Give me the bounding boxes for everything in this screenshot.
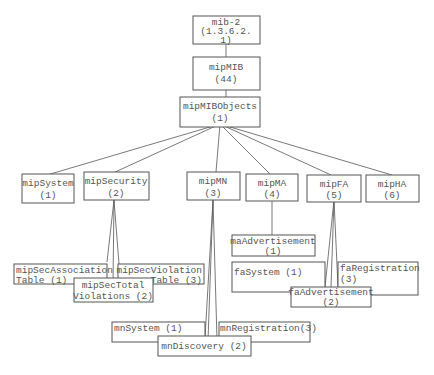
node-label: (3) <box>204 188 221 199</box>
node-label: faRegistration <box>340 263 420 274</box>
node-label: mnDiscovery (2) <box>161 341 247 352</box>
edge-fa-registration <box>334 200 338 287</box>
node-mipMN: mipMN (3) <box>187 172 240 200</box>
edge-objects-mipSecurity <box>113 124 220 173</box>
node-label: mipMA <box>258 178 287 189</box>
node-mipMIBObjects: mipMIBObjects (1) <box>180 97 260 127</box>
node-label: mipHA <box>378 179 407 190</box>
node-mib2: mib-2 (1.3.6.2. 1) <box>193 16 260 46</box>
mib-tree-diagram: mib-2 (1.3.6.2. 1) mipMIB (44) mipMIBObj… <box>0 0 434 375</box>
node-faAdvertisement: faAdvertisement (2) <box>288 287 374 308</box>
node-label: mipFA <box>320 179 349 190</box>
edge-objects-mipMN <box>216 124 220 172</box>
node-label: (4) <box>263 189 280 200</box>
edge-security-total <box>113 200 114 283</box>
node-mipHA: mipHA (6) <box>366 175 419 202</box>
node-label: (5) <box>325 190 342 201</box>
edge-security-assoc <box>107 200 114 262</box>
edge-mn-registration <box>213 200 217 340</box>
node-mipMIB: mipMIB (44) <box>193 57 260 90</box>
node-mnDiscovery: mnDiscovery (2) <box>158 336 251 356</box>
node-label: mipSecTotal <box>82 280 145 291</box>
node-label: mipMIBObjects <box>183 101 257 112</box>
node-label: (2) <box>107 188 124 199</box>
node-mipSecTotalViolations: mipSecTotal Violations (2) <box>73 278 153 302</box>
node-label: mipMIB <box>209 62 244 73</box>
node-maAdvertisement: maAdvertisement (1) <box>230 235 316 257</box>
node-mipSecurity: mipSecurity (2) <box>84 172 149 200</box>
edge-objects-mipFA <box>220 124 331 175</box>
node-label: (6) <box>383 190 400 201</box>
node-mipSystem: mipSystem (1) <box>22 174 74 203</box>
node-label: (1) <box>211 113 228 124</box>
edge-security-violation <box>114 200 119 264</box>
node-label: mipSystem <box>22 178 74 189</box>
node-label: Table (3) <box>151 275 202 286</box>
node-label: (1) <box>39 190 56 201</box>
node-label: faSystem (1) <box>234 267 302 278</box>
node-label: Violations (2) <box>73 291 153 302</box>
node-label: (1) <box>264 246 281 257</box>
node-mipMA: mipMA (4) <box>246 174 298 201</box>
node-label: (2) <box>322 297 339 308</box>
node-label: mipMN <box>199 176 228 187</box>
node-label: mipSecurity <box>85 176 148 187</box>
node-label: 1) <box>220 35 231 46</box>
edge-objects-mipSystem <box>47 124 220 175</box>
node-label: (3) <box>340 274 357 285</box>
node-label: mnSystem (1) <box>114 323 182 334</box>
node-mipFA: mipFA (5) <box>307 175 361 202</box>
node-label: mnRegistration(3) <box>220 323 317 334</box>
node-label: (44) <box>215 74 238 85</box>
node-label: Table (1) <box>16 275 67 286</box>
